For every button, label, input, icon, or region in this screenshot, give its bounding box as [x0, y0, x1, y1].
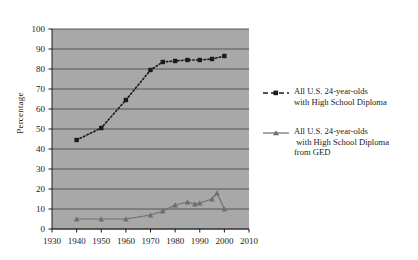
- data-point-marker-0: [99, 126, 103, 130]
- data-point-marker-0: [161, 60, 165, 64]
- data-point-marker-0: [210, 57, 214, 61]
- legend-label-line: from GED: [294, 147, 389, 158]
- data-point-marker-0: [124, 98, 128, 102]
- legend-swatch-0: [262, 88, 292, 98]
- legend-entry-0[interactable]: All U.S. 24-year-oldswith High School Di…: [262, 86, 387, 107]
- legend-label-line: with High School Diploma: [294, 97, 387, 108]
- chart-figure: Percentage 0102030405060708090100 193019…: [0, 0, 418, 260]
- legend-label-line: All U.S. 24-year-olds: [294, 126, 389, 137]
- legend-label-line: with High School Diploma: [294, 137, 389, 148]
- data-point-marker-0: [198, 58, 202, 62]
- legend-entry-1[interactable]: All U.S. 24-year-olds with High School D…: [262, 126, 389, 158]
- legend-swatch-1: [262, 128, 292, 138]
- legend-label-0: All U.S. 24-year-oldswith High School Di…: [294, 86, 387, 107]
- legend-label-1: All U.S. 24-year-olds with High School D…: [294, 126, 389, 158]
- data-point-marker-0: [148, 68, 152, 72]
- data-point-marker-0: [74, 138, 78, 142]
- data-point-marker-0: [173, 59, 177, 63]
- data-point-marker-0: [185, 58, 189, 62]
- legend-label-line: All U.S. 24-year-olds: [294, 86, 387, 97]
- data-point-marker-0: [222, 54, 226, 58]
